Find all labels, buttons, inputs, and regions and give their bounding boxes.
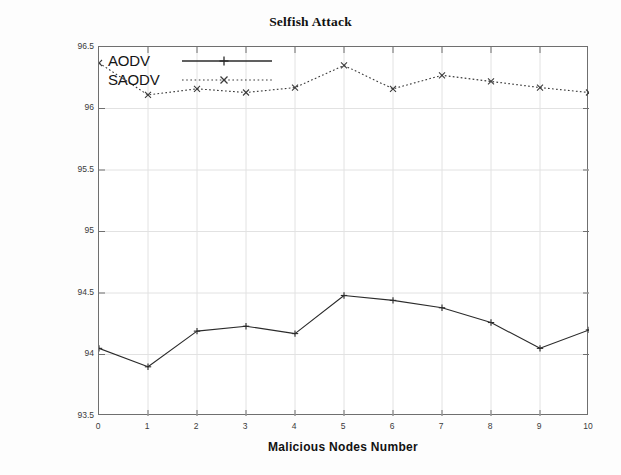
- data-point-marker: [586, 327, 589, 333]
- legend-item-saodv[interactable]: SAODV: [108, 70, 308, 89]
- legend-item-aodv[interactable]: AODV: [108, 51, 308, 70]
- data-point-marker: [99, 345, 102, 351]
- data-point-marker: [243, 323, 249, 329]
- x-axis-title: Malicious Nodes Number: [98, 440, 588, 454]
- x-tick-label: 6: [377, 421, 407, 431]
- x-tick-label: 0: [83, 421, 113, 431]
- y-tick-label: 95: [56, 226, 94, 235]
- x-tick-label: 5: [328, 421, 358, 431]
- legend-label-saodv: SAODV: [108, 71, 180, 88]
- y-tick-label: 95.5: [56, 165, 94, 174]
- data-point-marker: [586, 90, 589, 96]
- x-tick-label: 8: [475, 421, 505, 431]
- data-point-marker: [390, 297, 396, 303]
- y-axis-tick-labels: 93.59494.59595.59696.5: [52, 0, 94, 475]
- solid-line-plus-marker-icon: [180, 54, 276, 68]
- dotted-line-cross-marker-icon: [180, 73, 276, 87]
- chart-figure: Selfish Attack Packet Delivery Ratio (PD…: [0, 0, 621, 475]
- gridlines: [99, 47, 589, 416]
- y-tick-label: 96.5: [56, 42, 94, 51]
- data-point-marker: [488, 319, 494, 325]
- y-tick-label: 94.5: [56, 288, 94, 297]
- x-tick-label: 3: [230, 421, 260, 431]
- data-point-marker: [439, 305, 445, 311]
- y-tick-label: 96: [56, 103, 94, 112]
- y-tick-label: 93.5: [56, 411, 94, 420]
- data-point-marker: [537, 345, 543, 351]
- x-tick-label: 9: [524, 421, 554, 431]
- plot-canvas: [99, 47, 589, 416]
- x-tick-label: 4: [279, 421, 309, 431]
- x-tick-label: 10: [573, 421, 603, 431]
- x-axis-tick-labels: 012345678910: [98, 421, 588, 435]
- x-tick-label: 7: [426, 421, 456, 431]
- chart-legend: AODV SAODV: [108, 51, 308, 89]
- x-tick-label: 2: [181, 421, 211, 431]
- y-tick-label: 94: [56, 349, 94, 358]
- data-point-marker: [99, 60, 102, 66]
- x-tick-label: 1: [132, 421, 162, 431]
- plot-area: [98, 46, 588, 415]
- legend-label-aodv: AODV: [108, 52, 180, 69]
